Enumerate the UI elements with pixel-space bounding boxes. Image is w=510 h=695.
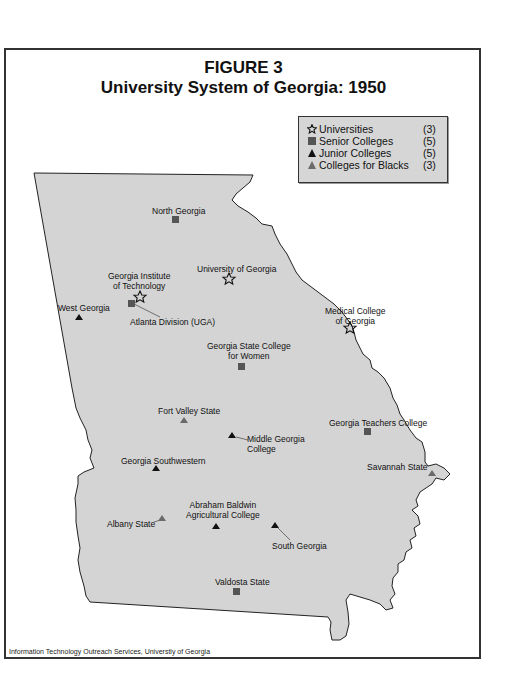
label-georgia-tech: Georgia Institute of Technology [108, 271, 170, 291]
label-abac: Abraham Baldwin Agricultural College [186, 500, 260, 520]
legend-item-colleges-for-blacks: Colleges for Blacks (3) [306, 159, 447, 171]
gscw-marker[interactable] [238, 363, 245, 370]
north-georgia-marker[interactable] [172, 216, 179, 223]
label-middle-georgia: Middle Georgia College [247, 434, 305, 454]
georgia-state-outline [34, 173, 450, 640]
gray-triangle-icon [306, 160, 317, 170]
legend-item-senior-colleges: Senior Colleges (5) [306, 135, 447, 147]
label-valdosta-state: Valdosta State [215, 577, 270, 587]
map-legend: Universities (3) Senior Colleges (5) Jun… [298, 116, 448, 183]
label-fort-valley: Fort Valley State [158, 406, 220, 416]
valdosta-state-marker[interactable] [233, 588, 240, 595]
atlanta-division-marker[interactable] [128, 300, 135, 307]
label-university-of-georgia: University of Georgia [197, 264, 276, 274]
triangle-icon [306, 148, 317, 158]
label-medical-college: Medical College of Georgia [325, 306, 385, 326]
label-savannah-state: Savannah State [367, 462, 428, 472]
label-gscw: Georgia State College for Women [207, 341, 291, 361]
label-south-georgia: South Georgia [272, 541, 327, 551]
label-west-georgia: West Georgia [58, 303, 110, 313]
legend-item-junior-colleges: Junior Colleges (5) [306, 147, 447, 159]
label-north-georgia: North Georgia [152, 206, 205, 216]
label-georgia-teachers: Georgia Teachers College [329, 418, 427, 428]
star-outline-icon [306, 124, 317, 134]
label-georgia-southwestern: Georgia Southwestern [121, 456, 206, 466]
square-icon [306, 136, 317, 146]
label-atlanta-division: Atlanta Division (UGA) [130, 317, 215, 327]
label-albany-state: Albany State [107, 519, 155, 529]
legend-item-universities: Universities (3) [306, 123, 447, 135]
georgia-teachers-marker[interactable] [364, 428, 371, 435]
credit-line: Information Technology Outreach Services… [9, 648, 210, 655]
